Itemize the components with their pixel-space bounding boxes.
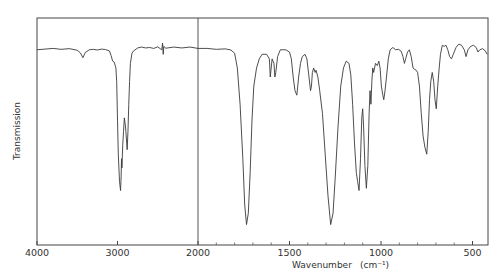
x-tick-label: 3000 xyxy=(105,247,129,258)
x-tick-label: 2000 xyxy=(186,247,210,258)
x-tick-label: 1500 xyxy=(277,247,301,258)
spectrum-line xyxy=(37,43,487,225)
x-tick-label: 500 xyxy=(463,247,481,258)
x-axis-unit: (cm⁻¹) xyxy=(360,260,389,270)
y-axis-title: Transmission xyxy=(12,102,22,161)
x-axis-tick-labels: 40003000200015001000500 xyxy=(25,247,482,258)
x-tick-label: 4000 xyxy=(25,247,49,258)
x-axis-ticks xyxy=(37,241,473,245)
x-tick-label: 1000 xyxy=(369,247,393,258)
x-axis-title-text: Wavenumber xyxy=(292,260,352,270)
ir-spectrum-chart: 40003000200015001000500 Wavenumber (cm⁻¹… xyxy=(0,0,504,278)
plot-frame xyxy=(37,18,488,245)
x-axis-title: Wavenumber xyxy=(292,260,352,270)
